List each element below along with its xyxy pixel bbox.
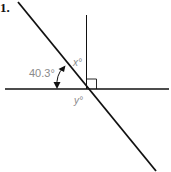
- arrowhead-top: [59, 66, 66, 73]
- angle-x-label: x°: [72, 57, 82, 68]
- arrowhead-bottom: [54, 82, 61, 89]
- angle-y-label: y°: [73, 95, 83, 106]
- angle-diagram: 40.3° x° y°: [0, 0, 171, 172]
- given-angle-label: 40.3°: [29, 67, 55, 79]
